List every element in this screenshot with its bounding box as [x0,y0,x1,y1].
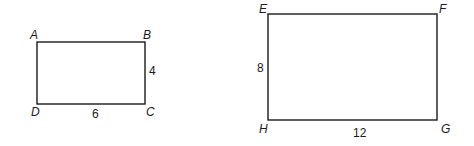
vertex-h-label: H [259,122,268,136]
side-eh-length: 8 [257,61,264,75]
rectangle-abcd: A B C D 4 6 [29,28,156,121]
rectangle-efgh: E F G H 8 12 [257,2,450,140]
vertex-c-label: C [146,105,155,119]
rectangle-abcd-outline [37,42,145,104]
rectangle-efgh-outline [268,14,437,120]
vertex-d-label: D [31,105,40,119]
vertex-a-label: A [29,28,38,42]
vertex-e-label: E [259,2,268,16]
side-dc-length: 6 [92,107,99,121]
side-hg-length: 12 [353,126,367,140]
vertex-b-label: B [143,28,151,42]
vertex-g-label: G [441,122,450,136]
vertex-f-label: F [439,2,447,16]
side-bc-length: 4 [149,64,156,78]
diagram-canvas: A B C D 4 6 E F G H 8 12 [0,0,474,146]
